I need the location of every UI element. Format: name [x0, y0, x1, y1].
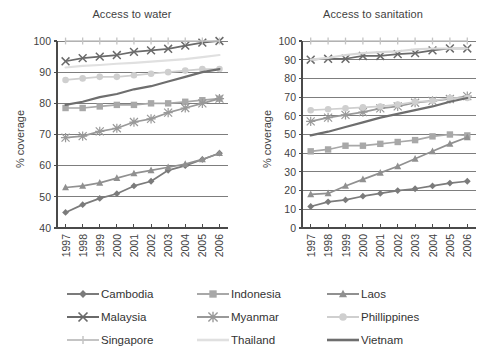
chart-legend: CambodiaIndonesiaLaosMalaysiaMyanmarPhil… [0, 282, 498, 352]
y-tick-label: 20 [284, 184, 296, 196]
y-tick-label: 100 [33, 35, 51, 47]
chart-figure: Access to water % coverage 4050607080901… [0, 0, 498, 364]
series-phillippines [62, 66, 223, 84]
legend-item-laos[interactable]: Laos [326, 287, 432, 301]
legend-item-phillippines[interactable]: Phillippines [326, 310, 432, 324]
x-tick-label: 2005 [196, 234, 208, 258]
y-tick-label: 0 [290, 222, 296, 234]
plot-area-sanitation: 0102030405060708090100199719981999200020… [250, 0, 498, 276]
x-tick-label: 1998 [322, 234, 334, 258]
legend-item-thailand[interactable]: Thailand [196, 333, 308, 347]
legend-symbol-star-icon [196, 310, 230, 324]
y-tick-label: 40 [284, 147, 296, 159]
y-tick-label: 30 [284, 166, 296, 178]
legend-label: Myanmar [231, 311, 279, 323]
y-tick-label: 80 [284, 72, 296, 84]
legend-symbol-diamond-icon [66, 287, 100, 301]
x-tick-label: 2006 [213, 234, 225, 258]
plot-area-water: 4050607080901001997199819992000200120022… [0, 0, 250, 276]
x-tick-label: 1999 [94, 234, 106, 258]
legend-item-cambodia[interactable]: Cambodia [66, 287, 178, 301]
chart-panel-sanitation: Access to sanitation % coverage 01020304… [250, 0, 498, 272]
legend-label: Phillippines [361, 311, 419, 323]
legend-label: Laos [361, 288, 386, 300]
gridlines [57, 41, 228, 197]
x-tick-label: 2002 [392, 234, 404, 258]
legend-symbol-none-icon [326, 333, 360, 347]
axes: 4050607080901001997199819992000200120022… [33, 35, 228, 258]
y-tick-label: 60 [39, 159, 51, 171]
legend-row: MalaysiaMyanmarPhillippines [0, 305, 498, 328]
y-tick-label: 90 [39, 66, 51, 78]
x-tick-label: 1998 [77, 234, 89, 258]
x-tick-label: 2000 [357, 234, 369, 258]
legend-label: Indonesia [231, 288, 281, 300]
legend-symbol-none-icon [196, 333, 230, 347]
legend-label: Singapore [101, 334, 153, 346]
legend-item-singapore[interactable]: Singapore [66, 333, 178, 347]
x-tick-label: 1997 [60, 234, 72, 258]
x-tick-label: 2001 [128, 234, 140, 258]
x-tick-label: 2003 [162, 234, 174, 258]
y-tick-label: 90 [284, 54, 296, 66]
legend-item-indonesia[interactable]: Indonesia [196, 287, 308, 301]
y-tick-label: 10 [284, 203, 296, 215]
legend-row: CambodiaIndonesiaLaos [0, 282, 498, 305]
legend-label: Thailand [231, 334, 275, 346]
legend-symbol-cross-icon [66, 310, 100, 324]
x-tick-label: 2002 [145, 234, 157, 258]
chart-panel-water: Access to water % coverage 4050607080901… [0, 0, 250, 272]
y-tick-label: 50 [284, 128, 296, 140]
legend-label: Vietnam [361, 334, 403, 346]
x-tick-label: 2003 [409, 234, 421, 258]
x-tick-label: 1999 [340, 234, 352, 258]
x-tick-label: 2005 [444, 234, 456, 258]
y-tick-label: 50 [39, 191, 51, 203]
series-group [306, 38, 472, 210]
legend-item-vietnam[interactable]: Vietnam [326, 333, 432, 347]
x-tick-label: 2000 [111, 234, 123, 258]
series-group [61, 37, 224, 216]
y-tick-label: 70 [39, 128, 51, 140]
y-tick-label: 40 [39, 222, 51, 234]
legend-row: SingaporeThailandVietnam [0, 328, 498, 351]
x-tick-label: 2001 [374, 234, 386, 258]
x-tick-label: 1997 [305, 234, 317, 258]
x-tick-label: 2004 [427, 234, 439, 258]
legend-item-malaysia[interactable]: Malaysia [66, 310, 178, 324]
y-tick-label: 70 [284, 91, 296, 103]
x-tick-label: 2004 [179, 234, 191, 258]
legend-label: Malaysia [101, 311, 146, 323]
legend-symbol-square-icon [196, 287, 230, 301]
legend-item-myanmar[interactable]: Myanmar [196, 310, 308, 324]
legend-label: Cambodia [101, 288, 153, 300]
plot-svg-sanitation: 0102030405060708090100199719981999200020… [250, 0, 498, 272]
plot-svg-water: 4050607080901001997199819992000200120022… [0, 0, 250, 272]
y-tick-label: 60 [284, 110, 296, 122]
legend-symbol-circle-icon [326, 310, 360, 324]
x-tick-label: 2006 [461, 234, 473, 258]
series-cambodia [307, 178, 470, 210]
series-singapore [311, 38, 468, 45]
legend-symbol-triangle-icon [326, 287, 360, 301]
y-tick-label: 100 [278, 35, 296, 47]
y-tick-label: 80 [39, 97, 51, 109]
legend-symbol-tick-icon [66, 333, 100, 347]
